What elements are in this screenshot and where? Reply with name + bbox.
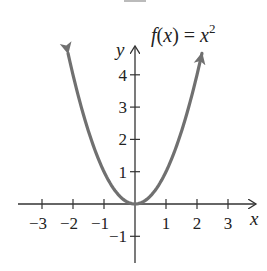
x-tick-label: 1 [162, 214, 171, 233]
parabola-chart: −3−2−1123 −11234 x y f(x) = x2 [0, 0, 267, 271]
title-x: x [162, 24, 172, 46]
y-tick-label: 4 [119, 66, 128, 85]
y-tick-label: 2 [119, 130, 128, 149]
x-tick-label: −2 [60, 214, 78, 233]
y-tick-label: 3 [119, 98, 128, 117]
y-axis-label: y [114, 39, 125, 60]
y-tick-label: 1 [119, 163, 128, 182]
x-tick-label: 2 [193, 214, 202, 233]
title-x2: x [199, 24, 209, 46]
x-tick-label: −3 [29, 214, 47, 233]
title-exponent: 2 [209, 21, 216, 36]
y-tick-label: −1 [109, 227, 127, 246]
x-axis-label: x [249, 208, 259, 229]
cutoff-text-fragment [124, 0, 146, 2]
title-mid: ) = [172, 24, 200, 47]
x-tick-label: −1 [91, 214, 109, 233]
x-tick-label: 3 [224, 214, 233, 233]
function-title: f(x) = x2 [151, 21, 215, 47]
